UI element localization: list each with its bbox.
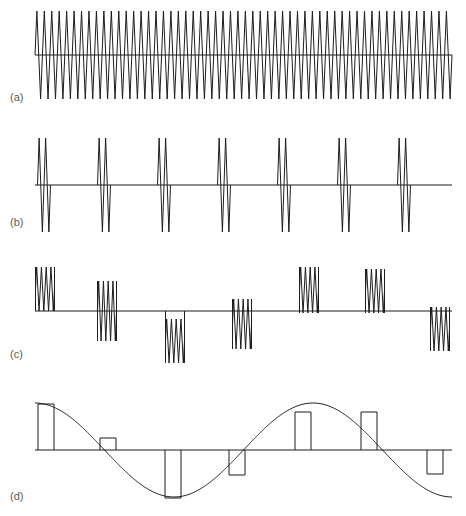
panel-a: (a) — [10, 11, 452, 103]
panel-c: (c) — [10, 267, 452, 363]
sampled-burst-7 — [431, 307, 450, 351]
panel-b: (b) — [10, 138, 452, 232]
sampled-burst-1 — [36, 267, 55, 311]
panel-label-d: (d) — [10, 490, 23, 502]
panel-label-b: (b) — [10, 216, 23, 228]
pulse-modulation-figure: (a)(b)(c)(d) — [0, 0, 466, 516]
sampled-burst-3 — [166, 319, 185, 363]
pam-pulse-3 — [165, 450, 181, 498]
panel-label-c: (c) — [10, 348, 23, 360]
panel-label-a: (a) — [10, 91, 23, 103]
sampled-burst-2 — [98, 281, 117, 341]
sampled-burst-6 — [366, 269, 385, 313]
sampled-burst-4 — [233, 299, 252, 349]
pam-pulse-1 — [38, 404, 54, 450]
panel-d: (d) — [10, 403, 452, 502]
pam-pulse-7 — [427, 450, 443, 474]
waveform-canvas: (a)(b)(c)(d) — [0, 0, 466, 516]
pam-pulse-5 — [295, 412, 311, 450]
sampled-burst-5 — [300, 267, 319, 313]
